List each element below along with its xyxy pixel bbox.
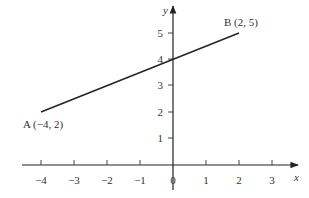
point-a-label: A (−4, 2) xyxy=(23,118,63,131)
y-axis-label: y xyxy=(162,4,168,16)
y-tick-label: 3 xyxy=(158,79,164,91)
y-tick-label: 2 xyxy=(158,106,164,118)
coordinate-plane-chart: −4 −3 −2 −1 0 1 2 3 1 2 3 4 5 y x A (−4,… xyxy=(0,0,309,198)
line-ab xyxy=(41,33,239,112)
x-tick-label: −1 xyxy=(134,174,146,186)
y-tick-labels: 1 2 3 4 5 xyxy=(158,27,164,144)
point-b-label: B (2, 5) xyxy=(224,16,258,29)
x-tick-label: 0 xyxy=(170,174,176,186)
x-tick-label: 2 xyxy=(236,174,242,186)
x-tick-label: 3 xyxy=(269,174,275,186)
x-tick-label: −4 xyxy=(35,174,47,186)
y-tick-label: 5 xyxy=(158,27,164,39)
y-tick-label: 1 xyxy=(158,132,164,144)
x-tick-label: 1 xyxy=(203,174,209,186)
x-axis-label: x xyxy=(293,171,299,183)
x-ticks xyxy=(41,160,272,165)
x-tick-label: −3 xyxy=(68,174,80,186)
y-ticks xyxy=(168,33,173,138)
x-tick-label: −2 xyxy=(101,174,113,186)
x-tick-labels: −4 −3 −2 −1 0 1 2 3 xyxy=(35,174,275,186)
